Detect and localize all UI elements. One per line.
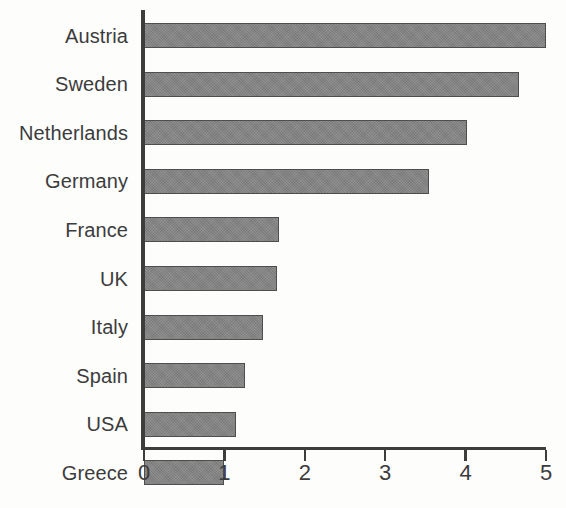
y-axis-line	[141, 10, 145, 450]
bar	[144, 169, 429, 194]
x-axis-tick-label: 2	[285, 462, 325, 484]
bar	[144, 217, 279, 242]
x-axis-tick-label: 4	[446, 462, 486, 484]
bar	[144, 363, 245, 388]
y-axis-label: Austria	[0, 26, 128, 46]
y-axis-label: USA	[0, 414, 128, 434]
bar	[144, 23, 546, 48]
x-axis-tick-label: 5	[526, 462, 566, 484]
plot-area	[144, 10, 546, 450]
y-axis-label: France	[0, 220, 128, 240]
x-axis-tick-label: 0	[124, 462, 164, 484]
x-axis-tick-label: 1	[204, 462, 244, 484]
y-axis-label: Spain	[0, 366, 128, 386]
bar	[144, 266, 277, 291]
y-axis-category-labels: AustriaSwedenNetherlandsGermanyFranceUKI…	[0, 10, 136, 450]
y-axis-label: Netherlands	[0, 123, 128, 143]
bar-chart: AustriaSwedenNetherlandsGermanyFranceUKI…	[0, 0, 566, 508]
bar	[144, 315, 263, 340]
y-axis-label: Italy	[0, 317, 128, 337]
y-axis-label: Sweden	[0, 74, 128, 94]
x-axis-line	[141, 447, 546, 450]
bar	[144, 120, 467, 145]
y-axis-label: Germany	[0, 171, 128, 191]
y-axis-label: Greece	[0, 463, 128, 483]
y-axis-label: UK	[0, 269, 128, 289]
bar	[144, 412, 236, 437]
x-axis-tick-label: 3	[365, 462, 405, 484]
bar	[144, 72, 519, 97]
